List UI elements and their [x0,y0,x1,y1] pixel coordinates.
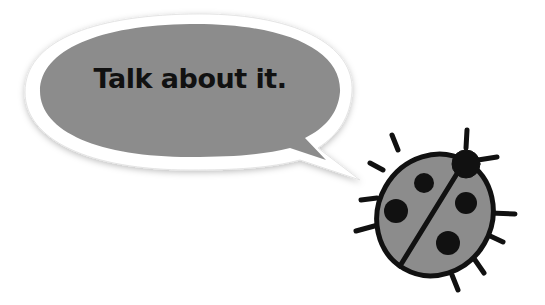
ladybug-icon [355,130,516,297]
illustration [0,0,545,305]
speech-bubble-text: Talk about it. [40,63,340,94]
